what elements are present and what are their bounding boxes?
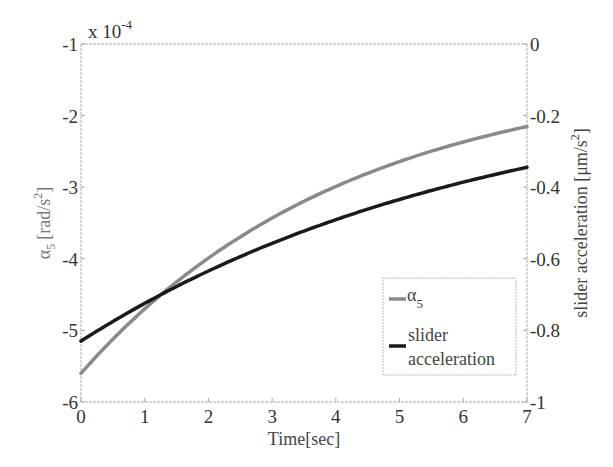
- x-tick-label: 5: [395, 406, 405, 427]
- legend-label-slider-line2: acceleration: [408, 349, 495, 369]
- svg-text:α5[rad/s2]: α5[rad/s2]: [31, 187, 58, 259]
- right-tick-label: 0: [530, 34, 540, 55]
- left-y-axis-ticks: -1-2-3-4-5-6: [62, 34, 85, 413]
- left-tick-label: -5: [62, 320, 78, 341]
- left-tick-label: -6: [62, 392, 78, 413]
- left-axis-multiplier: x 10-4: [88, 17, 133, 42]
- right-tick-label: -0.4: [530, 177, 561, 198]
- x-tick-label: 2: [204, 406, 214, 427]
- x-tick-label: 3: [267, 406, 277, 427]
- right-y-axis-ticks: 0-0.2-0.4-0.6-0.8-1: [523, 34, 561, 413]
- right-tick-label: -1: [530, 392, 546, 413]
- x-tick-label: 1: [140, 406, 150, 427]
- x-axis-label: Time[sec]: [268, 429, 340, 449]
- svg-text:slider acceleration [μm/s2]: slider acceleration [μm/s2]: [568, 128, 591, 318]
- right-tick-label: -0.2: [530, 106, 560, 127]
- legend: α5 slider acceleration: [383, 278, 516, 375]
- left-tick-label: -3: [62, 177, 78, 198]
- left-y-axis-label: α5[rad/s2]: [31, 187, 58, 259]
- x-tick-label: 6: [459, 406, 469, 427]
- right-tick-label: -0.8: [530, 320, 560, 341]
- left-tick-label: -4: [62, 249, 78, 270]
- x-tick-label: 4: [331, 406, 341, 427]
- dual-axis-line-chart: 01234567 -1-2-3-4-5-6 0-0.2-0.4-0.6-0.8-…: [0, 0, 613, 467]
- left-tick-label: -1: [62, 34, 78, 55]
- right-y-axis-label: slider acceleration [μm/s2]: [568, 128, 591, 318]
- legend-label-slider-line1: slider: [408, 325, 448, 345]
- left-tick-label: -2: [62, 106, 78, 127]
- right-tick-label: -0.6: [530, 249, 560, 270]
